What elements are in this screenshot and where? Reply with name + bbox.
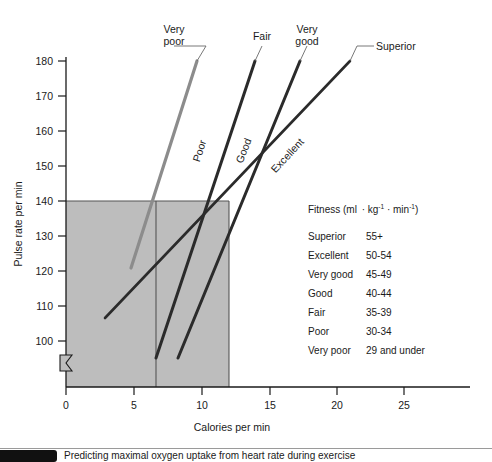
y-tick-label-140: 140 [35, 195, 53, 207]
callout-label-fair: Fair [253, 30, 272, 42]
x-tick-label-15: 15 [264, 399, 276, 411]
legend-row-name-3: Good [308, 288, 332, 299]
pulse-rate-chart: 180 170 160 150 140 130 120 110 100 0 5 … [0, 0, 492, 462]
x-axis-ticks [66, 387, 404, 395]
legend-row-name-4: Fair [308, 307, 326, 318]
caption-number-tab [0, 450, 57, 462]
legend-row-name-5: Poor [308, 326, 330, 337]
legend-title: Fitness (ml · kg-1 · min-1) [308, 203, 418, 215]
y-tick-label-110: 110 [36, 300, 53, 312]
y-tick-label-170: 170 [35, 90, 53, 102]
leader-very-good [300, 46, 307, 61]
x-tick-label-20: 20 [331, 399, 343, 411]
x-tick-label-0: 0 [63, 399, 69, 411]
legend-row-name-6: Very poor [308, 345, 351, 356]
legend-row-value-5: 30-34 [366, 326, 392, 337]
caption-text: Predicting maximal oxygen uptake from he… [64, 450, 355, 461]
callout-label-very-poor-line2: poor [163, 35, 185, 47]
legend-row-name-1: Excellent [308, 250, 349, 261]
y-tick-label-100: 100 [35, 335, 53, 347]
x-tick-label-10: 10 [196, 399, 208, 411]
x-tick-label-5: 5 [131, 399, 137, 411]
legend-row-value-3: 40-44 [366, 288, 392, 299]
callout-label-very-good-line1: Very [296, 23, 318, 35]
x-axis-title: Calories per min [194, 421, 271, 433]
caption-divider-rule [0, 448, 492, 449]
legend-row-value-4: 35-39 [366, 307, 392, 318]
legend-row-value-6: 29 and under [366, 345, 426, 356]
x-tick-label-25: 25 [398, 399, 410, 411]
y-tick-label-150: 150 [35, 160, 53, 172]
figure-container: 180 170 160 150 140 130 120 110 100 0 5 … [0, 0, 492, 462]
legend-row-name-2: Very good [308, 269, 353, 280]
curve-inline-label-poor: Poor [190, 138, 208, 163]
legend-row-value-1: 50-54 [366, 250, 392, 261]
fitness-legend: Fitness (ml · kg-1 · min-1) Superior 55+… [308, 203, 426, 356]
callout-label-very-good-line2: good [295, 35, 319, 47]
y-tick-label-120: 120 [35, 265, 53, 277]
callout-leaders [174, 46, 374, 61]
leader-very-poor [174, 46, 206, 61]
y-axis-title: Pulse rate per min [12, 181, 24, 266]
legend-row-value-0: 55+ [366, 231, 383, 242]
leader-superior [350, 46, 374, 61]
legend-row-value-2: 45-49 [366, 269, 392, 280]
figure-caption-bar: Predicting maximal oxygen uptake from he… [0, 448, 492, 462]
leader-fair [255, 46, 262, 61]
y-tick-label-160: 160 [35, 125, 53, 137]
callout-label-superior: Superior [376, 40, 416, 52]
callout-label-very-poor-line1: Very [163, 23, 185, 35]
legend-title-prefix: Fitness (ml [308, 204, 357, 215]
y-tick-label-180: 180 [35, 55, 53, 67]
legend-row-name-0: Superior [308, 231, 346, 242]
curve-inline-label-good: Good [233, 136, 254, 164]
y-axis-ticks [58, 61, 66, 341]
y-tick-label-130: 130 [35, 230, 53, 242]
